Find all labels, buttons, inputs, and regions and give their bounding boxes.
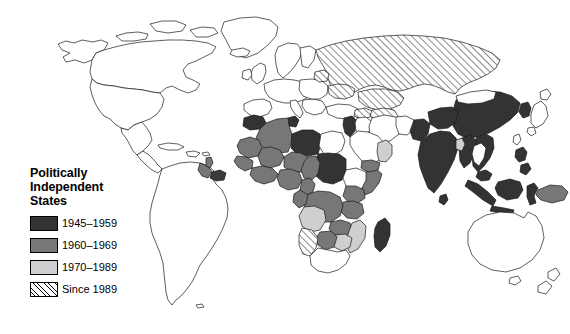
legend-label-1945-1959: 1945–1959: [62, 217, 117, 229]
legend-title: Politically Independent States: [30, 166, 160, 208]
legend-item-1945-1959: 1945–1959: [30, 215, 160, 231]
legend-swatch-1945-1959: [30, 216, 58, 231]
legend-label-1970-1989: 1970–1989: [62, 261, 117, 273]
region-suriname: [210, 170, 226, 181]
legend-swatch-1960-1969: [30, 238, 58, 253]
world-map-figure: Politically Independent States 1945–1959…: [0, 0, 570, 334]
region-mali: [258, 147, 284, 168]
region-puerto-rico: [202, 152, 210, 156]
legend-label-since-1989: Since 1989: [62, 283, 117, 295]
legend-item-since-1989: Since 1989: [30, 281, 160, 297]
legend-item-1970-1989: 1970–1989: [30, 259, 160, 275]
region-baltics: [314, 70, 329, 82]
region-kenya-uganda: [343, 186, 365, 203]
legend-swatch-1970-1989: [30, 260, 58, 275]
legend-item-1960-1969: 1960–1969: [30, 237, 160, 253]
legend-label-1960-1969: 1960–1969: [62, 239, 117, 251]
map-legend: Politically Independent States 1945–1959…: [30, 166, 160, 303]
region-falklands: [196, 304, 204, 308]
legend-swatch-since-1989: [30, 282, 58, 297]
region-central-east-europe: [299, 79, 328, 99]
